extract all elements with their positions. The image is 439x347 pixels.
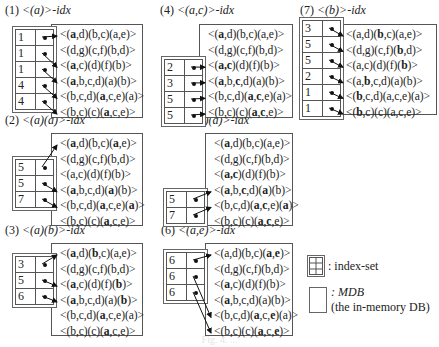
sequence-row: <(a,d)(b,c)(a,e)> [60,246,142,262]
pointer-dot-icon [194,275,198,279]
index-position: 1 [16,30,36,46]
sequence-row: <(a,c)(d)(f)(b)> [60,167,142,183]
pointer-dot-icon [194,291,198,295]
sequence-row: <(a,d)(b,c)(a,e)> [208,27,292,43]
sequence-row: <(a,c)(d)(f)(b)> [208,58,292,74]
pointer-cell [185,108,203,124]
pointer-dot-icon [330,59,334,63]
sequence-row: <(a,b,c,d)(a)(b)> [60,74,142,90]
index-entry: 1 [303,101,341,117]
sequence-row: <(a,d)(b,c)(a,e)> [214,246,292,262]
index-position: 5 [303,53,323,69]
mdb-box-panel-2: <(a,d)(b,c)(a,e)><(d,g)(c,f)(b,d)><(a,c)… [51,133,143,226]
sequence-row: <(a,c)(d)(f)(b)> [60,277,142,293]
sequence-row: <(a,c)(d)(f)(b)> [60,58,142,74]
pointer-cell [36,30,54,46]
sequence-row: <(a,b,c,d)(a)(b)> [214,293,292,309]
index-position: 6 [167,269,187,285]
index-entry: 1 [16,46,54,62]
index-position: 7 [167,208,187,224]
index-set-panel-4: 2355 [161,56,206,127]
pointer-cell [36,160,54,176]
index-position: 5 [16,176,36,192]
pointer-cell [36,62,54,78]
index-entry: 2 [165,60,203,76]
sequence-row: <(b,c,d)(a,c,e)(a)> [346,89,436,105]
pointer-dot-icon [192,98,196,102]
index-position: 5 [303,37,323,53]
index-position: 5 [16,160,36,176]
pointer-cell [323,101,341,117]
index-entry: 3 [303,21,341,37]
sequence-row: <(a,d)(b,c)(a,e)> [60,27,142,43]
pointer-cell [187,253,205,269]
index-position: 4 [16,94,36,110]
sequence-row: <(a,c)(d)(f)(b)> [214,167,292,183]
pointer-dot-icon [192,82,196,86]
mdb-box-panel-6: <(a,d)(b,c)(a,e)><(d,g)(c,f)(b,d)><(a,c)… [205,243,293,336]
index-entry: 6 [167,269,205,285]
index-set-panel-6: 666 [163,249,208,304]
index-entry: 6 [167,285,205,301]
legend-mdb-label: : MDB [331,285,364,299]
pointer-dot-icon [43,279,47,283]
pointer-cell [36,257,54,273]
index-position: 3 [165,76,185,92]
index-position: 3 [303,21,323,37]
index-entry: 5 [16,176,54,192]
index-entry: 6 [167,253,205,269]
mdb-icon [309,287,327,313]
pointer-dot-icon [330,107,334,111]
sequence-row: <(b,c)(c)(a,c,e)> [214,214,292,230]
index-position: 3 [16,257,36,273]
sequence-row: <(d,g)(c,f)(b,d)> [60,152,142,168]
panel-1-title: (1) <(a)>-idx [5,3,71,17]
index-entry: 1 [303,85,341,101]
index-entry: 3 [16,257,54,273]
index-entry: 5 [16,273,54,289]
index-entry: 1 [16,62,54,78]
sequence-row: <(a,d)(b,c)(a,e)> [214,136,292,152]
sequence-row: <(b,c,d)(a,c,e)(a)> [214,308,292,324]
index-entry: 5 [167,192,205,208]
mdb-box-panel-4: <(a,d)(b,c)(a,e)><(d,g)(c,f)(b,d)><(a,c)… [199,24,293,118]
sequence-row: <(b,c)(c)(a,c,e)> [208,105,292,121]
sequence-row: <(d,g)(c,f)(b,d)> [214,262,292,278]
sequence-row: <(d,g)(c,f)(b,d)> [60,262,142,278]
index-position: 5 [165,108,185,124]
pointer-cell [36,94,54,110]
pointer-dot-icon [194,214,198,218]
pointer-dot-icon [194,198,198,202]
pointer-cell [185,92,203,108]
pointer-cell [323,53,341,69]
index-entry: 7 [167,208,205,224]
index-position: 2 [165,60,185,76]
sequence-row: <(a,b,c,d)(a)(b)> [214,183,292,199]
sequence-row: <(b,c,d)(a,c,e)(a)> [60,308,142,324]
pointer-dot-icon [330,91,334,95]
index-position: 5 [165,92,185,108]
index-set-panel-1: 11144 [12,26,57,113]
index-position: 6 [167,285,187,301]
index-position: 2 [303,69,323,85]
pointer-dot-icon [330,43,334,47]
pointer-cell [323,85,341,101]
pointer-cell [36,78,54,94]
index-position: 1 [16,46,36,62]
mdb-box-panel-1: <(a,d)(b,c)(a,e)><(d,g)(c,f)(b,d)><(a,c)… [51,24,143,118]
index-position: 1 [303,85,323,101]
index-position: 6 [167,253,187,269]
index-entry: 3 [165,76,203,92]
sequence-row: <(a,c)(d)(f)(b)> [346,58,436,74]
sequence-row: <(b,c)(c)(a,c,e)> [60,105,142,121]
pointer-cell [36,46,54,62]
pointer-cell [323,21,341,37]
panel-7-title: (7) <(b)>-idx [300,3,366,17]
pointer-cell [185,60,203,76]
pointer-cell [36,176,54,192]
legend-index-set: : index-set [307,255,378,277]
pointer-cell [36,273,54,289]
pointer-dot-icon [43,68,47,72]
index-entry: 7 [16,192,54,208]
pointer-cell [323,37,341,53]
